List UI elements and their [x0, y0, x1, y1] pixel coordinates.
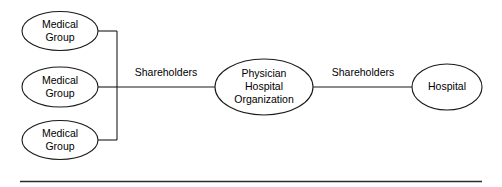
medical-group-2-label-line-2: Group — [45, 87, 74, 99]
edge-label-shareholders-right: Shareholders — [332, 66, 394, 78]
edge-label-shareholders-left: Shareholders — [135, 66, 197, 78]
node-medical-group-3[interactable]: Medical Group — [22, 121, 98, 160]
node-hospital[interactable]: Hospital — [412, 64, 482, 110]
pho-label-line-3: Organization — [234, 93, 294, 105]
hospital-label: Hospital — [428, 80, 466, 92]
diagram-root: Medical Group Medical Group Medical Grou… — [0, 0, 502, 187]
medical-group-3-label-line-2: Group — [45, 140, 74, 152]
node-medical-group-2[interactable]: Medical Group — [22, 67, 98, 107]
edge-medical-groups-to-pho — [98, 31, 216, 140]
node-medical-group-1[interactable]: Medical Group — [22, 12, 98, 51]
node-physician-hospital-organization[interactable]: Physician Hospital Organization — [215, 59, 313, 115]
pho-label-line-1: Physician — [242, 67, 287, 79]
diagram-canvas: Medical Group Medical Group Medical Grou… — [0, 0, 502, 187]
medical-group-1-label-line-1: Medical — [42, 18, 78, 30]
medical-group-1-label-line-2: Group — [45, 31, 74, 43]
pho-label-line-2: Hospital — [245, 80, 283, 92]
medical-group-2-label-line-1: Medical — [42, 74, 78, 86]
medical-group-3-label-line-1: Medical — [42, 127, 78, 139]
